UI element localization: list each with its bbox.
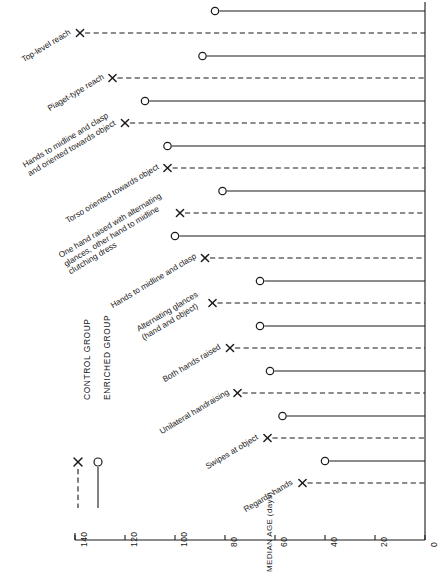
axis-tick-label: 60 [279,537,289,547]
axis-tick-label: 20 [379,537,389,547]
x-marker-icon [109,74,116,81]
axis-tick-label: 40 [329,537,339,547]
x-marker-icon [209,299,216,306]
circle-marker-icon [94,458,102,466]
circle-marker-icon [266,367,273,374]
x-marker-icon [76,29,83,36]
x-marker-icon [264,434,271,441]
x-marker-icon [201,254,208,261]
x-marker-icon [74,458,82,466]
axis-tick-label: 0 [429,542,439,547]
axis-layer [75,2,425,540]
axis-tick-label: 80 [229,537,239,547]
x-marker-icon [234,389,241,396]
x-marker-icon [226,344,233,351]
median-age-chart: 140120100806040200 Top-level reachPiaget… [0,0,442,576]
x-marker-icon [121,119,128,126]
axis-tick-label: 100 [179,532,189,547]
x-marker-icon [299,479,306,486]
circle-marker-icon [164,142,171,149]
circle-marker-icon [279,412,286,419]
circle-marker-icon [171,232,178,239]
axis-tick-label: 140 [79,532,89,547]
circle-marker-icon [141,97,148,104]
axis-title: MEDIAN AGE (days) [265,492,274,572]
legend-label: CONTROL GROUP [82,319,92,400]
circle-marker-icon [219,187,226,194]
x-marker-icon [176,209,183,216]
series-layer [76,7,425,486]
x-marker-icon [164,164,171,171]
circle-marker-icon [256,277,263,284]
circle-marker-icon [256,322,263,329]
axis-tick-label: 120 [129,532,139,547]
circle-marker-icon [211,7,218,14]
plot-canvas [0,0,442,576]
circle-marker-icon [321,457,328,464]
legend-label: ENRICHED GROUP [102,315,112,400]
circle-marker-icon [199,52,206,59]
legend-layer [74,458,102,508]
